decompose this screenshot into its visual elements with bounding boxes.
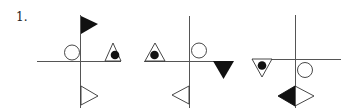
figures-canvas: [0, 0, 353, 111]
diamond-white-half: [295, 86, 314, 106]
white-triangle-left: [172, 86, 189, 104]
black-dot: [258, 61, 267, 70]
black-flag-triangle: [81, 16, 98, 34]
figure-3: [252, 15, 341, 108]
diamond-black-half: [278, 86, 295, 106]
figure-1: [37, 15, 121, 108]
black-dot: [150, 51, 159, 60]
white-circle: [298, 63, 313, 78]
figure-2: [144, 16, 234, 108]
black-dot: [111, 51, 120, 60]
white-circle: [65, 45, 80, 60]
white-triangle-right: [81, 86, 98, 105]
black-triangle-down: [213, 61, 234, 79]
white-circle: [192, 43, 207, 58]
